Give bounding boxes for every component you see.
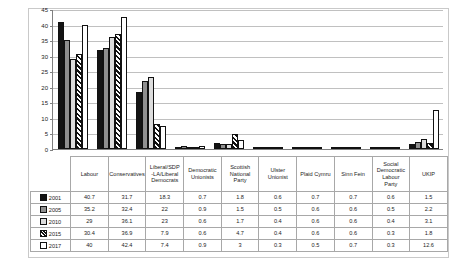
column-header-10: UKIP <box>410 157 448 192</box>
table-cell: 23 <box>146 216 184 228</box>
bar-group <box>131 10 170 149</box>
bar-groups <box>53 10 443 149</box>
y-axis-tick-labels: 051015202530354045 <box>30 10 50 150</box>
legend-label: 2017 <box>49 243 61 249</box>
y-tick-label-10: 10 <box>41 116 48 122</box>
legend-item-2017[interactable]: 2017 <box>31 240 71 252</box>
table-cell: 0.7 <box>334 192 372 204</box>
table-cell: 0.6 <box>297 204 335 216</box>
table-cell: 7.9 <box>146 228 184 240</box>
column-header-6: UlsterUnionist <box>259 157 297 192</box>
bar-group <box>209 10 248 149</box>
column-header-1: Labour <box>71 157 109 192</box>
bar <box>277 147 283 149</box>
table-cell: 0.4 <box>259 216 297 228</box>
bar-group <box>287 10 326 149</box>
y-tick-label-30: 30 <box>41 54 48 60</box>
table-cell: 0.3 <box>372 240 410 252</box>
bar-group <box>365 10 404 149</box>
legend-item-2001[interactable]: 2001 <box>31 192 71 204</box>
table-cell: 0.6 <box>372 192 410 204</box>
table-cell: 42.4 <box>108 240 146 252</box>
table-cell: 0.6 <box>334 216 372 228</box>
table-cell: 0.6 <box>297 216 335 228</box>
table-cell: 0.6 <box>334 204 372 216</box>
table-cell: 0.3 <box>259 240 297 252</box>
column-header-2: Conservatives <box>108 157 146 192</box>
table-row: 20102936.1230.61.70.40.60.60.43.1 <box>31 216 448 228</box>
bar-group <box>248 10 287 149</box>
table-cell: 35.2 <box>71 204 109 216</box>
bar-group <box>170 10 209 149</box>
table-cell: 0.6 <box>334 228 372 240</box>
table-cell: 0.6 <box>184 228 222 240</box>
data-table: LabourConservativesLiberal/SDP-LA/Libera… <box>30 156 448 252</box>
plot-area-wrapper: 051015202530354045 <box>30 10 447 160</box>
legend-label: 2010 <box>49 219 61 225</box>
table-cell: 4.7 <box>221 228 259 240</box>
table-row: 200140.731.718.30.71.80.60.70.70.61.5 <box>31 192 448 204</box>
data-table-wrapper: LabourConservativesLiberal/SDP-LA/Libera… <box>30 156 447 252</box>
table-cell: 29 <box>71 216 109 228</box>
legend-label: 2001 <box>49 195 61 201</box>
bar <box>199 146 205 149</box>
plot-area <box>52 10 443 150</box>
legend-item-2005[interactable]: 2005 <box>31 204 71 216</box>
table-cell: 0.7 <box>334 240 372 252</box>
chart-figure: 051015202530354045 LabourConservativesLi… <box>0 0 461 269</box>
table-cell: 1.8 <box>410 228 448 240</box>
table-row: 200535.232.4220.91.50.50.60.60.52.2 <box>31 204 448 216</box>
table-cell: 0.5 <box>297 240 335 252</box>
table-cell: 0.4 <box>259 228 297 240</box>
table-cell: 3 <box>221 240 259 252</box>
y-tick-label-40: 40 <box>41 23 48 29</box>
table-cell: 0.4 <box>372 216 410 228</box>
y-tick-label-35: 35 <box>41 38 48 44</box>
column-header-5: ScottishNationalParty <box>221 157 259 192</box>
table-cell: 1.5 <box>410 192 448 204</box>
table-cell: 22 <box>146 204 184 216</box>
table-cell: 0.5 <box>259 204 297 216</box>
bar <box>433 110 439 149</box>
table-cell: 0.6 <box>259 192 297 204</box>
table-row: 201530.436.97.90.64.70.40.60.60.31.8 <box>31 228 448 240</box>
bar <box>160 126 166 149</box>
legend-item-2015[interactable]: 2015 <box>31 228 71 240</box>
bar-group <box>92 10 131 149</box>
y-tick-label-15: 15 <box>41 100 48 106</box>
y-tick-label-0: 0 <box>45 147 48 153</box>
bar <box>82 25 88 149</box>
table-cell: 0.7 <box>297 192 335 204</box>
legend-label: 2015 <box>49 231 61 237</box>
y-tick-label-5: 5 <box>45 131 48 137</box>
table-cell: 0.7 <box>184 192 222 204</box>
column-header-4: DemocraticUnionists <box>184 157 222 192</box>
table-cell: 36.1 <box>108 216 146 228</box>
bar-group <box>404 10 443 149</box>
table-cell: 0.6 <box>184 216 222 228</box>
y-tick-label-20: 20 <box>41 85 48 91</box>
table-cell: 18.3 <box>146 192 184 204</box>
column-header-8: Sinn Fein <box>334 157 372 192</box>
legend-swatch-icon <box>40 230 47 237</box>
table-cell: 3.1 <box>410 216 448 228</box>
column-header-3: Liberal/SDP-LA/LiberalDemocrats <box>146 157 184 192</box>
legend-item-2010[interactable]: 2010 <box>31 216 71 228</box>
bar <box>394 147 400 149</box>
legend-swatch-icon <box>40 206 47 213</box>
table-cell: 1.8 <box>221 192 259 204</box>
table-cell: 0.3 <box>372 228 410 240</box>
table-cell: 7.4 <box>146 240 184 252</box>
column-header-7: Plaid Cymru <box>297 157 335 192</box>
table-cell: 2.2 <box>410 204 448 216</box>
bar <box>121 17 127 149</box>
table-cell: 0.9 <box>184 240 222 252</box>
column-header-9: SocialDemocraticLabourParty <box>372 157 410 192</box>
bar <box>355 147 361 149</box>
table-cell: 31.7 <box>108 192 146 204</box>
legend-swatch-icon <box>40 194 47 201</box>
y-tick-label-45: 45 <box>41 7 48 13</box>
table-corner-cell <box>31 157 71 192</box>
table-cell: 40 <box>71 240 109 252</box>
table-cell: 0.6 <box>297 228 335 240</box>
